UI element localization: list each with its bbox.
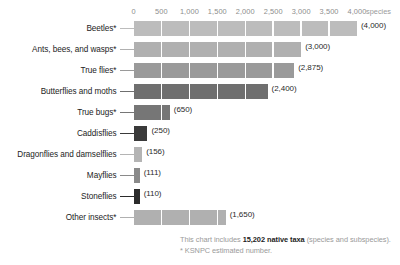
bar-container bbox=[134, 21, 358, 36]
leader-line bbox=[120, 91, 134, 93]
gridline bbox=[217, 42, 218, 57]
x-axis-unit-label: species bbox=[366, 6, 391, 17]
gridline bbox=[328, 21, 329, 36]
gridline bbox=[161, 105, 162, 120]
footnote-emphasis: 15,202 native taxa bbox=[243, 235, 305, 244]
chart-row: True flies*(2,875) bbox=[0, 60, 400, 81]
chart-rows: Beetles*(4,000)Ants, bees, and wasps*(3,… bbox=[0, 18, 400, 228]
bar bbox=[134, 84, 268, 99]
category-label: Butterflies and moths bbox=[41, 81, 117, 102]
x-axis-tick-1000: 1,000 bbox=[180, 6, 199, 17]
gridline bbox=[161, 84, 162, 99]
bar-container bbox=[134, 189, 140, 204]
gridline bbox=[189, 84, 190, 99]
bar-container bbox=[134, 168, 140, 183]
x-axis-tick-3500: 3,500 bbox=[320, 6, 339, 17]
gridline bbox=[245, 42, 246, 57]
bar-container bbox=[134, 126, 148, 141]
x-axis-tick-2500: 2,500 bbox=[264, 6, 283, 17]
category-label: Stoneflies bbox=[81, 186, 116, 207]
gridline bbox=[217, 21, 218, 36]
bar-value-label: (1,650) bbox=[230, 207, 255, 222]
x-axis-tick-2000: 2,000 bbox=[236, 6, 255, 17]
gridline bbox=[189, 63, 190, 78]
bar-value-label: (4,000) bbox=[361, 18, 386, 33]
chart-row: True bugs*(650) bbox=[0, 102, 400, 123]
gridline bbox=[217, 84, 218, 99]
category-label: Ants, bees, and wasps* bbox=[32, 39, 116, 60]
gridline bbox=[189, 210, 190, 225]
gridline bbox=[245, 84, 246, 99]
gridline bbox=[161, 42, 162, 57]
bar-value-label: (110) bbox=[144, 186, 162, 201]
x-axis-tick-1500: 1,500 bbox=[208, 6, 227, 17]
category-label: True bugs* bbox=[77, 102, 116, 123]
bar bbox=[134, 105, 170, 120]
gridline bbox=[245, 21, 246, 36]
gridline bbox=[217, 210, 218, 225]
x-axis-tick-0: 0 bbox=[132, 6, 136, 17]
bar bbox=[134, 147, 143, 162]
chart-row: Beetles*(4,000) bbox=[0, 18, 400, 39]
chart-row: Ants, bees, and wasps*(3,000) bbox=[0, 39, 400, 60]
leader-line bbox=[120, 28, 134, 30]
chart-row: Other insects*(1,650) bbox=[0, 207, 400, 228]
footnote-suffix: (species and subspecies). bbox=[305, 235, 391, 244]
bar bbox=[134, 63, 295, 78]
bar-value-label: (2,875) bbox=[298, 60, 323, 75]
chart-row: Caddisflies(250) bbox=[0, 123, 400, 144]
category-label: Other insects* bbox=[66, 207, 117, 228]
leader-line bbox=[120, 70, 134, 72]
footnote-ksnpc-estimate: * KSNPC estimated number. bbox=[180, 246, 400, 257]
bar-value-label: (650) bbox=[174, 102, 192, 117]
bar-value-label: (111) bbox=[144, 165, 161, 180]
leader-line bbox=[120, 133, 134, 135]
category-label: True flies* bbox=[80, 60, 116, 81]
bar-container bbox=[134, 210, 226, 225]
gridline bbox=[217, 63, 218, 78]
bar-container bbox=[134, 63, 295, 78]
bar-container bbox=[134, 42, 302, 57]
gridline bbox=[272, 21, 273, 36]
category-label: Dragonflies and damselflies bbox=[17, 144, 116, 165]
bar-value-label: (2,400) bbox=[272, 81, 297, 96]
gridline bbox=[189, 42, 190, 57]
bar-container bbox=[134, 84, 268, 99]
x-axis-top: 05001,0001,5002,0002,5003,0003,5004,000s… bbox=[0, 6, 400, 18]
bar bbox=[134, 189, 140, 204]
gridline bbox=[300, 21, 301, 36]
chart-row: Stoneflies(110) bbox=[0, 186, 400, 207]
leader-line bbox=[120, 112, 134, 114]
chart-row: Mayflies(111) bbox=[0, 165, 400, 186]
leader-line bbox=[120, 175, 134, 177]
leader-line bbox=[120, 154, 134, 156]
leader-line bbox=[120, 217, 134, 219]
gridline bbox=[189, 21, 190, 36]
gridline bbox=[161, 63, 162, 78]
bar-container bbox=[134, 105, 170, 120]
bar-container bbox=[134, 147, 143, 162]
x-axis-tick-500: 500 bbox=[155, 6, 168, 17]
gridline bbox=[161, 210, 162, 225]
insect-species-bar-chart: 05001,0001,5002,0002,5003,0003,5004,000s… bbox=[0, 0, 400, 265]
bar-value-label: (3,000) bbox=[305, 39, 330, 54]
bar bbox=[134, 168, 140, 183]
category-label: Beetles* bbox=[86, 18, 116, 39]
footnote-native-taxa: This chart includes 15,202 native taxa (… bbox=[180, 235, 400, 246]
gridline bbox=[272, 63, 273, 78]
category-label: Mayflies bbox=[87, 165, 117, 186]
chart-footnotes: This chart includes 15,202 native taxa (… bbox=[180, 235, 400, 256]
bar-value-label: (156) bbox=[146, 144, 164, 159]
chart-row: Butterflies and moths(2,400) bbox=[0, 81, 400, 102]
bar bbox=[134, 126, 148, 141]
bar bbox=[134, 210, 226, 225]
gridline bbox=[245, 63, 246, 78]
bar-value-label: (250) bbox=[151, 123, 169, 138]
category-label: Caddisflies bbox=[77, 123, 117, 144]
leader-line bbox=[120, 196, 134, 198]
gridline bbox=[272, 42, 273, 57]
gridline bbox=[161, 21, 162, 36]
x-axis-tick-4000: 4,000 bbox=[348, 6, 367, 17]
chart-row: Dragonflies and damselflies(156) bbox=[0, 144, 400, 165]
x-axis-tick-3000: 3,000 bbox=[292, 6, 311, 17]
